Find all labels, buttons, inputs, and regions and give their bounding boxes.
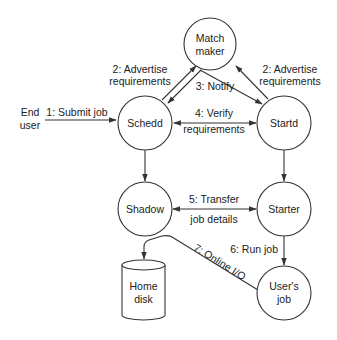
startd-label: Startd [270, 117, 298, 129]
matchmaker-label-1: Match [196, 32, 225, 44]
shadow-label: Shadow [126, 203, 164, 215]
starter-label: Starter [268, 203, 300, 215]
end-user-label-2: user [20, 119, 41, 131]
label-advertise-right-2: requirements [259, 75, 320, 87]
users-job-label-1: User's [269, 280, 298, 292]
label-submit-job: 1: Submit job [46, 106, 107, 118]
node-startd: Startd [257, 96, 311, 150]
node-shadow: Shadow [118, 182, 172, 236]
end-user-label-1: End [21, 106, 40, 118]
label-transfer-2: job details [189, 213, 237, 225]
node-users-job: User's job [257, 266, 311, 320]
condor-architecture-diagram: Match maker Schedd Startd Shadow Starter… [0, 0, 337, 340]
users-job-label-2: job [276, 293, 291, 305]
label-advertise-right-1: 2: Advertise [263, 63, 318, 75]
home-disk-label-2: disk [134, 293, 153, 305]
label-transfer-1: 5: Transfer [189, 193, 240, 205]
home-disk-label-1: Home [129, 280, 157, 292]
schedd-label: Schedd [127, 117, 163, 129]
label-notify: 3: Notify [196, 80, 235, 92]
label-advertise-left-1: 2: Advertise [113, 63, 168, 75]
label-run-job: 6: Run job [230, 243, 278, 255]
node-schedd: Schedd [118, 96, 172, 150]
label-advertise-left-2: requirements [109, 75, 170, 87]
matchmaker-label-2: maker [195, 45, 225, 57]
label-verify-2: requirements [183, 123, 244, 135]
node-starter: Starter [257, 182, 311, 236]
node-home-disk: Home disk [122, 260, 165, 320]
node-matchmaker: Match maker [184, 18, 236, 70]
label-verify-1: 4: Verify [195, 107, 234, 119]
